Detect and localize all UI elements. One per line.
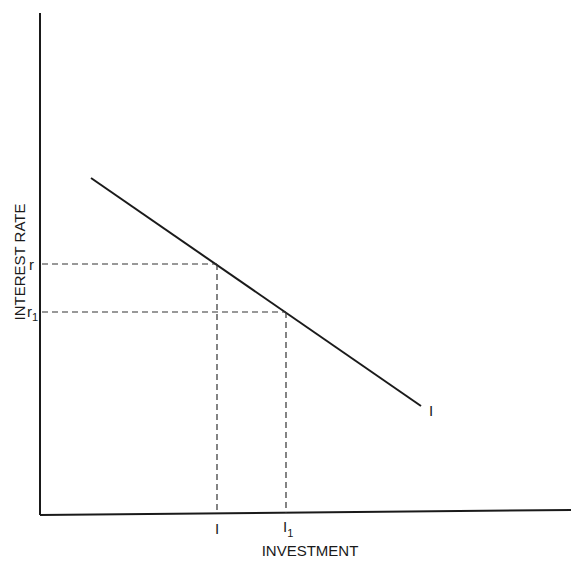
y-tick-r1-sub: 1	[32, 311, 38, 323]
investment-curve	[91, 178, 421, 406]
y-tick-r: r	[29, 256, 34, 273]
x-tick-i: I	[215, 520, 219, 537]
x-axis-title: INVESTMENT	[262, 542, 359, 559]
x-tick-i1-sub: 1	[287, 527, 293, 539]
y-axis-title: INTEREST RATE	[11, 204, 28, 321]
x-axis	[40, 510, 571, 515]
y-tick-r1: r1	[27, 303, 38, 323]
investment-chart: INTEREST RATE r r1 I I1 INVESTMENT I	[0, 0, 582, 564]
curve-label-i: I	[429, 402, 433, 419]
x-tick-i1: I1	[283, 518, 293, 539]
